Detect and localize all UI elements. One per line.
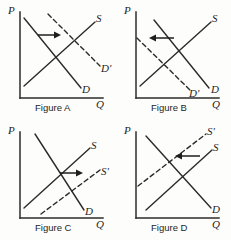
axis-label-price: P xyxy=(8,125,15,136)
figure-caption: Figure C xyxy=(35,223,71,233)
figure-b: P Q S D D' Figure B xyxy=(116,0,231,120)
axis-label-quantity: Q xyxy=(212,99,220,110)
demand-curve xyxy=(154,20,209,88)
supply-curve-label: S xyxy=(96,13,102,24)
demand-curve-label: D xyxy=(211,84,219,95)
supply-curve-label: S xyxy=(212,13,218,24)
figure-c: P Q S S' D Figure C xyxy=(0,120,115,240)
shift-arrow-right-icon xyxy=(60,170,83,177)
axis-label-quantity: Q xyxy=(96,219,104,230)
figure-a: P Q S D D' Figure A xyxy=(0,0,115,120)
figure-d: P Q S S' D Figure D xyxy=(116,120,231,240)
axis-label-price: P xyxy=(124,5,131,16)
supply-curve xyxy=(146,150,212,210)
supply-shifted-curve-label: S' xyxy=(101,166,109,177)
figure-caption: Figure D xyxy=(151,223,187,233)
demand-curve-label: D xyxy=(85,206,93,217)
supply-shifted-curve xyxy=(138,134,206,186)
figure-caption: Figure A xyxy=(35,103,70,113)
supply-curve-label: S xyxy=(91,140,97,151)
diagram-sheet: P Q S D D' Figure A P Q S D D' Figure B xyxy=(0,0,231,240)
supply-curve-label: S xyxy=(213,142,219,153)
shift-arrow-left-icon xyxy=(175,153,200,160)
figure-caption: Figure B xyxy=(151,103,187,113)
axis-label-quantity: Q xyxy=(212,219,220,230)
demand-shifted-curve-label: D' xyxy=(101,63,111,74)
supply-curve xyxy=(24,148,90,208)
axis-label-price: P xyxy=(124,125,131,136)
shift-arrow-right-icon xyxy=(38,32,61,39)
demand-curve-label: D xyxy=(212,204,220,215)
demand-shifted-curve-label: D' xyxy=(189,88,199,99)
axis-label-price: P xyxy=(8,5,15,16)
demand-curve-label: D xyxy=(82,84,90,95)
axis-label-quantity: Q xyxy=(96,99,104,110)
supply-shifted-curve-label: S' xyxy=(207,126,215,137)
